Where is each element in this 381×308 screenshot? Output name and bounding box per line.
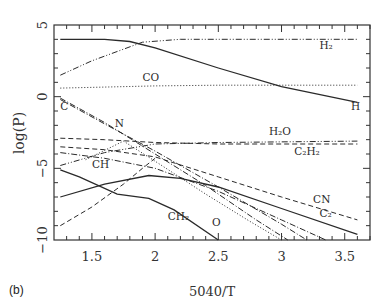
x-tick-label: 2.5	[208, 249, 229, 264]
label-c2h2: C₂H₂	[294, 145, 320, 157]
label-h2: H₂	[319, 39, 332, 51]
y-tick-label: −5	[35, 159, 50, 178]
label-co: CO	[142, 71, 159, 83]
data-curves	[60, 39, 357, 240]
label-ch2: CH₂	[168, 210, 189, 222]
y-tick-label: −10	[35, 226, 50, 253]
y-tick-label: 0	[35, 93, 50, 101]
x-axis-label: 5040/T	[189, 284, 235, 299]
curve-co	[60, 85, 357, 88]
curve-labels: HH₂COCNH₂OC₂H₂CNCHOC₂CH₂	[60, 39, 360, 227]
label-cn: CN	[313, 193, 330, 205]
label-h2o: H₂O	[269, 125, 291, 137]
label-c2: C₂	[319, 207, 331, 219]
y-tick-label: 5	[35, 21, 50, 29]
x-tick-label: 2	[151, 249, 159, 264]
curve-ch2	[60, 170, 218, 240]
label-c: C	[60, 100, 68, 112]
x-tick-label: 1.5	[82, 249, 103, 264]
curve-c2	[60, 176, 357, 235]
curve-h	[60, 39, 357, 102]
label-ch: CH	[92, 158, 109, 170]
chart-svg: 1.522.533.550−5−10 HH₂COCNH₂OC₂H₂CNCHOC₂…	[0, 0, 381, 308]
tick-labels: 1.522.533.550−5−10	[35, 21, 355, 264]
curve-h2	[60, 39, 357, 75]
label-n: N	[115, 117, 124, 129]
label-h: H	[351, 100, 360, 112]
panel-label: (b)	[9, 283, 24, 297]
y-axis-label: log(P)	[11, 112, 27, 154]
label-o: O	[212, 216, 221, 228]
x-tick-label: 3	[277, 249, 285, 264]
x-tick-label: 3.5	[334, 249, 355, 264]
